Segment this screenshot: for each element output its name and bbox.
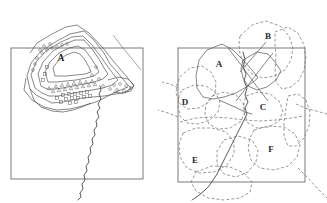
dashed-line-lower-right	[298, 168, 327, 198]
circle-marker	[43, 45, 46, 48]
square-marker	[42, 79, 45, 82]
right-solid-polygon-group	[196, 44, 281, 101]
triangle-marker	[54, 84, 57, 87]
river-line	[78, 86, 101, 200]
circle-marker	[119, 83, 122, 86]
dashed-line-transect-right	[296, 104, 327, 114]
dashed-polygon-northeast	[275, 27, 306, 89]
triangle-marker	[60, 83, 63, 86]
circle-marker	[116, 89, 119, 92]
dashed-polygon-north	[239, 21, 293, 78]
dashed-line-transect-left	[158, 110, 178, 117]
triangle-marker	[78, 80, 81, 83]
right-map-panel: ABCDEF	[158, 21, 327, 200]
left-panel-frame	[11, 48, 143, 179]
circle-marker	[36, 57, 39, 60]
left-contour-group	[24, 25, 134, 112]
circle-marker	[41, 52, 44, 55]
river-branch-right	[219, 100, 252, 114]
dashed-polygon-f	[248, 126, 300, 170]
square-marker	[65, 98, 68, 101]
solid-crossing-1	[228, 48, 268, 101]
circle-marker	[123, 90, 126, 93]
circle-marker	[109, 88, 112, 91]
circle-marker	[39, 49, 42, 52]
triangle-marker	[51, 89, 54, 92]
zone-label-b: B	[265, 31, 271, 41]
circle-marker	[125, 85, 128, 88]
triangle-marker	[66, 82, 69, 85]
square-marker	[56, 97, 59, 100]
circle-marker	[102, 85, 105, 88]
contour-second	[31, 36, 118, 96]
dashed-polygon-east-lower	[284, 94, 310, 146]
dashed-polygon-southcentral	[217, 136, 258, 177]
circle-marker	[113, 84, 116, 87]
triangle-marker	[72, 81, 75, 84]
circle-marker	[91, 74, 94, 77]
solid-polygon-a	[196, 44, 258, 99]
triangle-marker	[84, 80, 87, 83]
triangle-marker	[81, 84, 84, 87]
right-zone-label-group: ABCDEF	[182, 31, 275, 165]
river-line-right	[192, 52, 248, 200]
dashed-line-upper-left	[162, 82, 178, 88]
square-marker	[71, 97, 74, 100]
square-marker	[75, 101, 78, 104]
figure-root: A ABCDEF	[0, 0, 327, 203]
zone-label-a: A	[216, 59, 223, 69]
figure-svg: A ABCDEF	[0, 0, 327, 203]
left-map-panel: A	[11, 25, 143, 200]
dashed-polygon-south	[191, 166, 252, 200]
dashed-polygon-e	[179, 128, 234, 173]
zone-label-c: C	[260, 102, 267, 112]
zone-label-f: F	[268, 144, 274, 154]
square-marker	[69, 102, 72, 105]
diagonal-transect-line	[113, 35, 141, 70]
zone-label-a-left: A	[58, 53, 65, 63]
zone-label-e: E	[192, 155, 198, 165]
zone-label-d: D	[182, 97, 189, 107]
